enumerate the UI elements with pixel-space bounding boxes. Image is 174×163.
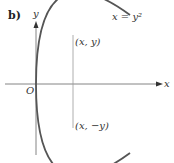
y-axis-label: y (33, 9, 39, 19)
diagram-canvas (0, 0, 174, 163)
equation-label: x = y² (112, 12, 142, 22)
parabola-curve (36, 0, 130, 163)
x-axis-label: x (164, 79, 170, 89)
origin-label: O (26, 86, 34, 96)
y-axis-arrow-icon (34, 21, 39, 28)
upper-point-label: (x, y) (75, 37, 100, 47)
part-label: b) (8, 10, 21, 21)
lower-point-label: (x, −y) (75, 121, 109, 131)
x-axis-arrow-icon (156, 82, 163, 87)
